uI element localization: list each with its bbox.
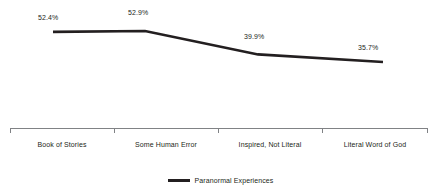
- data-label-book-of-stories: 52.4%: [38, 13, 58, 22]
- legend-label-paranormal-experiences: Paranormal Experiences: [195, 176, 274, 185]
- series-line-paranormal-experiences: [53, 31, 383, 62]
- data-label-literal-word-of-god: 35.7%: [358, 43, 378, 52]
- x-axis-category-book-of-stories: Book of Stories: [10, 140, 114, 149]
- x-axis-category-literal-word-of-god: Literal Word of God: [322, 140, 428, 149]
- x-axis-category-some-human-error: Some Human Error: [114, 140, 218, 149]
- legend-line-swatch: [168, 179, 190, 182]
- line-chart: 52.4% 52.9% 39.9% 35.7% Book of Stories …: [0, 0, 441, 193]
- x-axis-category-inspired-not-literal: Inspired, Not Literal: [218, 140, 322, 149]
- data-label-inspired-not-literal: 39.9%: [244, 32, 264, 41]
- chart-plot-area: [0, 0, 441, 193]
- data-label-some-human-error: 52.9%: [128, 8, 148, 17]
- chart-legend: Paranormal Experiences: [0, 173, 441, 187]
